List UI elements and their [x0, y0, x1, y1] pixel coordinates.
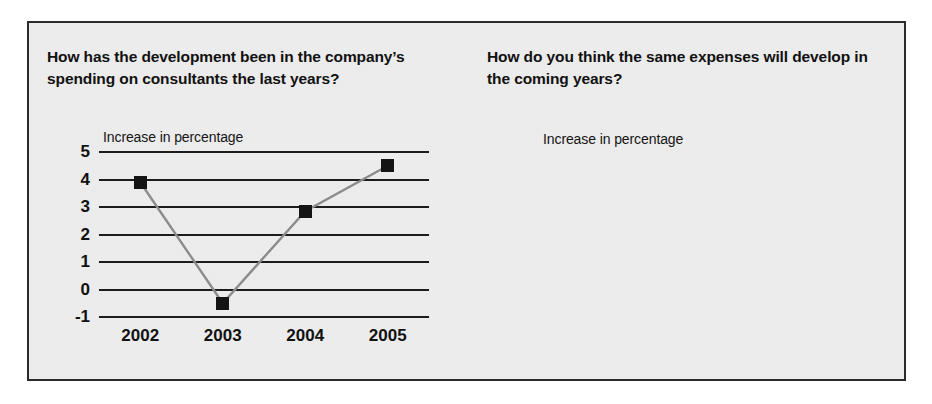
chart-left-axis-caption: Increase in percentage: [103, 129, 243, 145]
data-point-marker: [299, 205, 312, 218]
chart-panel: How has the development been in the comp…: [27, 21, 906, 381]
chart-right: How do you think the same expenses will …: [469, 23, 906, 379]
series-line: [99, 152, 429, 317]
data-point-marker: [216, 297, 229, 310]
x-axis-tick-label: 2002: [121, 326, 159, 346]
figure-root: How has the development been in the comp…: [0, 0, 932, 404]
y-axis-tick-label: 1: [81, 252, 90, 272]
chart-left-title: How has the development been in the comp…: [47, 46, 447, 90]
chart-left: How has the development been in the comp…: [29, 23, 469, 379]
y-axis-tick-label: 3: [81, 197, 90, 217]
y-axis-tick-label: 2: [81, 224, 90, 244]
x-axis-tick-label: 2005: [369, 326, 407, 346]
data-point-marker: [134, 176, 147, 189]
chart-left-plot-area: 543210-12002200320042005: [99, 152, 429, 317]
y-axis-tick-label: 5: [81, 142, 90, 162]
chart-right-title: How do you think the same expenses will …: [487, 46, 887, 90]
y-axis-tick-label: 4: [81, 169, 90, 189]
x-axis-tick-label: 2003: [204, 326, 242, 346]
y-axis-tick-label: 0: [81, 279, 90, 299]
chart-right-axis-caption: Increase in percentage: [543, 131, 683, 147]
y-axis-tick-label: -1: [75, 307, 90, 327]
data-point-marker: [381, 159, 394, 172]
x-axis-tick-label: 2004: [286, 326, 324, 346]
